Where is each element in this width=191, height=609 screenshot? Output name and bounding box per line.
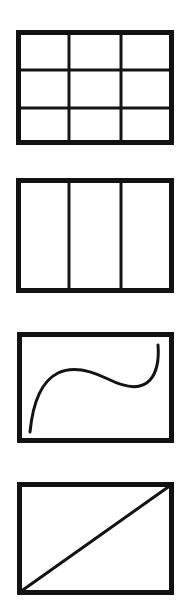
figure-stack xyxy=(0,0,191,609)
figure-columns-3-canvas xyxy=(10,172,180,299)
figure-s-curve-canvas xyxy=(11,326,180,449)
figure-columns-3 xyxy=(10,172,180,299)
figure-diagonal xyxy=(11,476,180,601)
figure-grid-3x3-canvas xyxy=(10,24,180,151)
figure-columns-3-frame xyxy=(19,181,172,291)
figure-s-curve xyxy=(11,326,180,449)
figure-grid-3x3-frame xyxy=(19,33,172,143)
figure-grid-3x3 xyxy=(10,24,180,151)
figure-diagonal-canvas xyxy=(11,476,180,601)
